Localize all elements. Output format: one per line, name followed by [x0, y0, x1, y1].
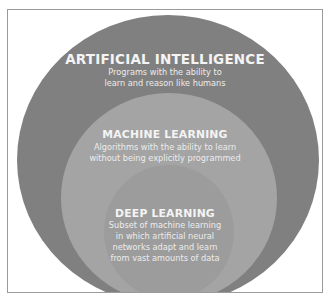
dl-title: DEEP LEARNING: [8, 207, 322, 220]
dl-description-line: in which artificial neural: [8, 231, 322, 242]
dl-description-line: from vast amounts of data: [8, 253, 322, 264]
ml-title: MACHINE LEARNING: [8, 128, 322, 141]
dl-description: Subset of machine learning in which arti…: [8, 220, 322, 264]
dl-description-line: networks adapt and learn: [8, 242, 322, 253]
ai-description: Programs with the ability to learn and r…: [8, 67, 322, 89]
ml-description: Algorithms with the ability to learn wit…: [8, 142, 322, 164]
dl-description-line: Subset of machine learning: [8, 220, 322, 231]
ai-description-line: learn and reason like humans: [8, 78, 322, 89]
ml-description-line: without being explicitly programmed: [8, 153, 322, 164]
ai-title: ARTIFICIAL INTELLIGENCE: [8, 51, 322, 67]
ai-description-line: Programs with the ability to: [8, 67, 322, 78]
ml-description-line: Algorithms with the ability to learn: [8, 142, 322, 153]
diagram-frame: ARTIFICIAL INTELLIGENCE Programs with th…: [7, 9, 323, 293]
